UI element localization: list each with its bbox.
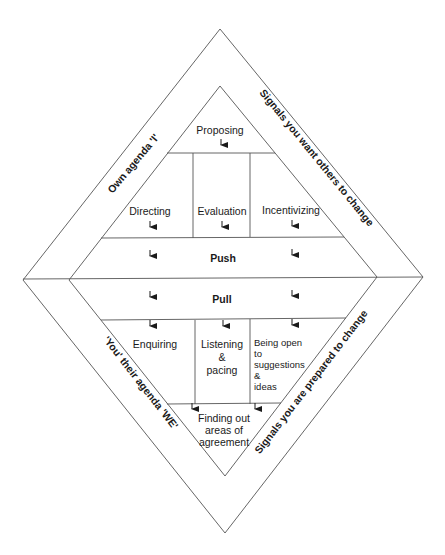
svg-text:&: & — [218, 351, 225, 363]
finding-agreement-label: Finding out areas of agreement — [198, 412, 250, 448]
svg-text:&: & — [254, 370, 261, 381]
listening-pacing-label: Listening & pacing — [201, 338, 243, 376]
svg-text:Listening: Listening — [201, 338, 243, 350]
svg-text:Being open: Being open — [254, 337, 302, 348]
push-pull-diagram: Proposing Directing Evaluation Incentivi… — [0, 0, 445, 555]
svg-text:pacing: pacing — [207, 364, 238, 376]
side-label-top-left: Own agenda 'I' — [105, 132, 161, 196]
being-open-label: Being open to suggestions & ideas — [254, 337, 305, 392]
incentivizing-label: Incentivizing — [262, 204, 320, 216]
push-band-top — [101, 237, 344, 238]
pull-band-bottom — [101, 318, 346, 320]
svg-text:agreement: agreement — [199, 436, 249, 448]
directing-label: Directing — [129, 205, 171, 217]
svg-text:areas of: areas of — [205, 424, 243, 436]
push-pull-divider — [23, 277, 423, 279]
evaluation-label: Evaluation — [197, 205, 246, 217]
svg-text:suggestions: suggestions — [254, 359, 305, 370]
svg-text:ideas: ideas — [254, 381, 277, 392]
push-label: Push — [210, 252, 236, 264]
svg-text:Finding out: Finding out — [198, 412, 250, 424]
outer-diamond — [23, 29, 423, 533]
pull-label: Pull — [212, 293, 231, 305]
svg-text:to: to — [254, 348, 262, 359]
proposing-label: Proposing — [196, 124, 243, 136]
enquiring-label: Enquiring — [133, 338, 178, 350]
agreement-divider — [167, 403, 281, 404]
